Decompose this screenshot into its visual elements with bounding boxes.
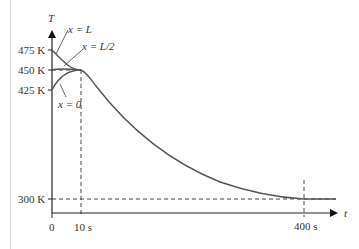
x-tick-10: 10 s — [74, 221, 92, 233]
curve-decay — [81, 70, 336, 199]
y-tick-475: 475 K — [18, 44, 45, 56]
series-label-x-0: x = 0 — [57, 98, 82, 110]
x-tick-0: 0 — [49, 221, 55, 233]
y-tick-450: 450 K — [18, 64, 45, 76]
series-label-x-L2: x = L/2 — [81, 40, 115, 52]
curves — [52, 50, 336, 199]
axes — [52, 32, 336, 213]
y-tick-425: 425 K — [18, 84, 45, 96]
series-label-x-L: x = L — [67, 23, 92, 35]
curve-x-0 — [52, 70, 81, 90]
y-tick-300: 300 K — [18, 193, 45, 205]
reference-lines — [52, 70, 336, 217]
leader-lines — [56, 30, 82, 97]
x-tick-400: 400 s — [294, 220, 318, 232]
y-axis-label: T — [48, 12, 55, 24]
x-axis-label: t — [344, 207, 348, 219]
temperature-chart: T t 475 K 450 K 425 K 300 K 0 10 s 400 s… — [0, 0, 359, 249]
